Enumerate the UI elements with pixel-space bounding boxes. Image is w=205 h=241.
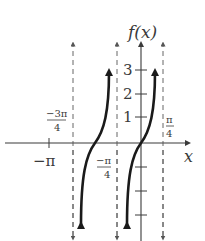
svg-text:4: 4	[54, 122, 60, 133]
x-tick-label-neg-pi-4: −π 4	[96, 155, 111, 180]
asymptotes	[73, 44, 163, 238]
svg-text:−π: −π	[96, 155, 111, 166]
svg-text:4: 4	[166, 128, 172, 139]
y-tick-label-3: 3	[123, 61, 133, 79]
svg-text:π: π	[166, 114, 173, 125]
graph: f(x) x 3 2 1 −π −3π 4 −π 4 π 4	[0, 0, 205, 241]
x-tick-label-neg-3pi-4: −3π 4	[46, 108, 68, 133]
y-tick-label-2: 2	[123, 85, 133, 103]
x-axis-label: x	[184, 147, 193, 166]
y-tick-label-1: 1	[123, 108, 133, 126]
svg-text:4: 4	[104, 169, 110, 180]
y-axis-label: f(x)	[126, 22, 157, 42]
curve-branch-1	[81, 72, 109, 225]
x-tick-label-pi-4: π 4	[166, 114, 174, 139]
svg-text:−3π: −3π	[46, 108, 68, 119]
x-tick-label-neg-pi: −π	[33, 152, 56, 170]
